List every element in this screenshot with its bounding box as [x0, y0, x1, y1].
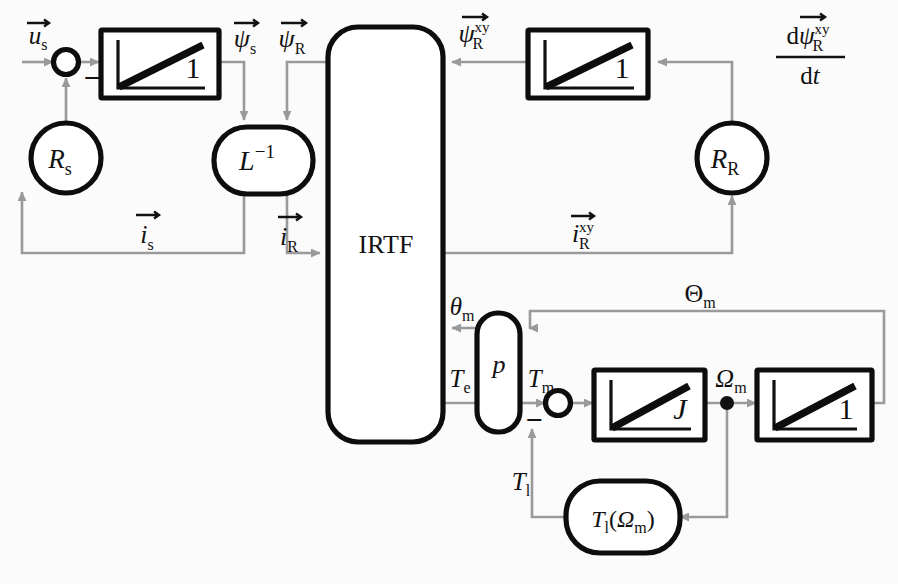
stator-current-label: is — [136, 212, 159, 254]
wire-psis-to-linv — [220, 62, 244, 120]
rotor-flux-label: ψR — [279, 20, 306, 58]
load-torque-block[interactable]: Tl(Ωm) — [566, 481, 680, 553]
stator-sum-minus-sign: − — [83, 61, 100, 94]
mechanical-torque-label: Tm — [528, 365, 555, 396]
integrator-stator-gain-label: 1 — [186, 51, 201, 84]
integrator-inertia-gain-label: J — [673, 392, 688, 425]
svg-text:dψxyR: dψxyR — [786, 21, 830, 54]
rotor-flux-derivative-label: dψxyR dt — [776, 14, 845, 90]
integrator-rotor-gain-label: 1 — [615, 51, 630, 84]
pole-pair-label: p — [491, 350, 506, 379]
integrator-rotor-flux[interactable]: 1 — [528, 30, 648, 98]
svg-text:ψxyR: ψxyR — [458, 19, 490, 52]
svg-text:iR: iR — [280, 222, 298, 255]
svg-text:ψR: ψR — [279, 24, 306, 57]
summing-junction-stator[interactable]: − — [54, 50, 101, 95]
integrator-angle-gain-label: 1 — [839, 392, 854, 425]
electrical-torque-label: Te — [449, 365, 470, 396]
svg-text:ψs: ψs — [234, 24, 256, 57]
wire-psiR-to-linv — [287, 62, 328, 120]
svg-text:ixyR: ixyR — [572, 219, 595, 252]
blocks-layer: 1 1 J 1 Rs — [31, 27, 872, 553]
rotor-resistance[interactable]: RR — [697, 123, 767, 193]
load-torque-signal-label: Tl — [512, 468, 531, 499]
stator-voltage-label: us — [27, 20, 49, 54]
irtf-block-label: IRTF — [359, 230, 414, 259]
integrator-angle[interactable]: 1 — [757, 370, 872, 440]
rotor-current-label: iR — [278, 214, 301, 256]
summing-junction-torque[interactable]: − — [525, 391, 570, 437]
rotor-angle-small-label: θm — [450, 293, 475, 324]
wire-is-feedback — [22, 192, 244, 253]
pole-pair-block[interactable]: p — [477, 313, 520, 432]
rotor-flux-xy-label: ψxyR — [458, 14, 490, 53]
stator-resistance[interactable]: Rs — [31, 123, 101, 193]
rotor-current-xy-label: ixyR — [571, 213, 595, 253]
irtf-block[interactable]: IRTF — [328, 27, 443, 442]
integrator-inertia[interactable]: J — [594, 370, 705, 440]
stator-flux-label: ψs — [234, 20, 258, 58]
svg-text:is: is — [140, 220, 153, 253]
wire-Tl-to-sum — [532, 429, 566, 517]
svg-text:dt: dt — [800, 62, 821, 89]
wire-dpsiRxy-to-integrator — [658, 62, 732, 122]
rotor-speed-label: Ωm — [715, 364, 747, 396]
inverse-inductance[interactable]: L−1 — [214, 127, 313, 194]
diagram-svg: 1 1 J 1 Rs — [0, 0, 898, 584]
rotor-angle-capital-label: Θm — [684, 279, 716, 311]
block-diagram-canvas: 1 1 J 1 Rs — [0, 0, 898, 584]
omega-takeoff-node — [720, 396, 734, 410]
integrator-stator-flux[interactable]: 1 — [101, 30, 219, 98]
torque-sum-minus-sign: − — [525, 403, 542, 436]
